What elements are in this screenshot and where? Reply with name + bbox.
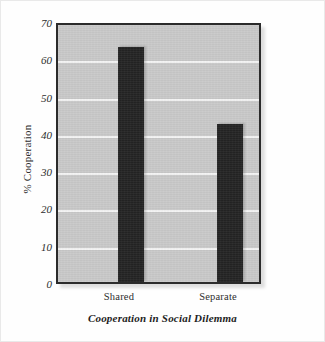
bar-shared (118, 47, 144, 282)
y-axis-title: % Cooperation (21, 99, 33, 219)
gridline (58, 61, 259, 63)
plot-area (56, 23, 261, 284)
gridline (58, 99, 259, 101)
bar-separate (217, 124, 243, 282)
y-axis-tick-label: 60 (12, 55, 52, 66)
figure-root: 010203040506070 % Cooperation Shared Sep… (0, 0, 325, 342)
x-axis-tick-label-separate: Separate (173, 291, 263, 302)
chart-title: Cooperation in Social Dilemma (1, 312, 324, 324)
y-axis-tick-label: 70 (12, 18, 52, 29)
y-axis-tick-label: 10 (12, 241, 52, 252)
y-axis-tick-label: 0 (12, 279, 52, 290)
x-axis-tick-label-shared: Shared (74, 291, 164, 302)
